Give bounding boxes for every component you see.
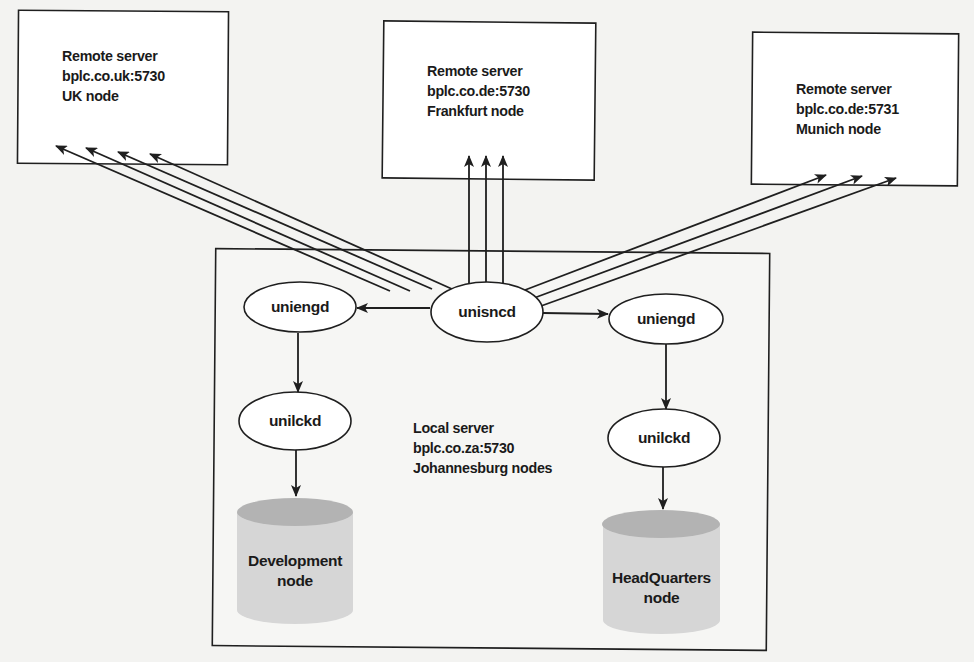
development-db-name: Development (237, 551, 353, 571)
local-server-node-name: Johannesburg nodes (413, 458, 552, 478)
local-server-label: Local server bplc.co.za:5730 Johannesbur… (413, 418, 552, 478)
uk-server-label: Remote server bplc.co.uk:5730 UK node (62, 46, 165, 106)
local-server-address: bplc.co.za:5730 (413, 438, 552, 458)
uk-server-node-name: UK node (62, 86, 165, 106)
unilckd-right-label: unilckd (608, 428, 720, 448)
uk-server-title: Remote server (62, 46, 165, 66)
frankfurt-server-node-name: Frankfurt node (427, 101, 530, 121)
headquarters-db-name: HeadQuarters (603, 568, 720, 588)
uniengd-right-label: uniengd (609, 309, 723, 329)
frankfurt-server-title: Remote server (427, 61, 530, 81)
local-server-title: Local server (413, 418, 552, 438)
munich-server-address: bplc.co.de:5731 (796, 99, 899, 119)
diagram-canvas: Remote server bplc.co.uk:5730 UK node Re… (0, 0, 974, 662)
unisncd-label: unisncd (431, 302, 543, 322)
frankfurt-server-label: Remote server bplc.co.de:5730 Frankfurt … (427, 61, 530, 121)
headquarters-db-label: HeadQuarters node (603, 568, 720, 608)
headquarters-db-suffix: node (603, 588, 720, 608)
development-db-suffix: node (237, 571, 353, 591)
munich-server-title: Remote server (796, 79, 899, 99)
development-db-label: Development node (237, 551, 353, 591)
unilckd-left-label: unilckd (239, 411, 351, 431)
frankfurt-server-address: bplc.co.de:5730 (427, 81, 530, 101)
uniengd-left-label: uniengd (244, 297, 356, 317)
munich-server-node-name: Munich node (796, 119, 899, 139)
uk-server-address: bplc.co.uk:5730 (62, 66, 165, 86)
munich-server-label: Remote server bplc.co.de:5731 Munich nod… (796, 79, 899, 139)
